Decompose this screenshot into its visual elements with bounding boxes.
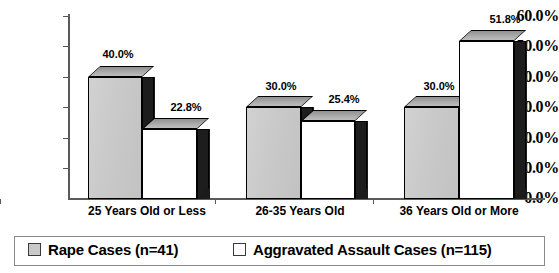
- bar-top: [142, 118, 209, 129]
- value-label-assault-25-or-less: 22.8%: [170, 101, 201, 113]
- bar-top: [301, 110, 367, 121]
- value-label-rape-25-or-less: 40.0%: [102, 48, 133, 60]
- bar-chart: 60.0% 50.0% 40.0% 30.0% 20.0% 10.0% 0.0%…: [0, 0, 559, 273]
- bar-assault-36-or-more: [459, 41, 514, 199]
- bar-side: [355, 121, 367, 199]
- bar-rape-36-or-more: [404, 107, 459, 199]
- x-axis-category-0: 25 Years Old or Less: [88, 204, 206, 218]
- value-label-rape-36-or-more: 30.0%: [423, 80, 454, 92]
- bar-rape-25-or-less: [88, 77, 142, 199]
- value-label-assault-26-35: 25.4%: [328, 93, 359, 105]
- legend-swatch-icon-rape-cases: [28, 243, 41, 256]
- y-axis-line: [68, 14, 70, 200]
- bar-assault-26-35: [301, 121, 355, 199]
- bar-top: [88, 66, 154, 77]
- bar-side: [514, 41, 526, 199]
- bar-front: [88, 77, 142, 199]
- value-label-rape-26-35: 30.0%: [265, 80, 296, 92]
- legend-label-rape-cases: Rape Cases (n=41): [48, 241, 178, 258]
- bar-top: [246, 96, 313, 107]
- x-axis-category-1: 26-35 Years Old: [255, 204, 344, 218]
- legend-swatch-icon-aggravated-assault-cases: [233, 243, 246, 256]
- bar-assault-25-or-less: [142, 129, 197, 199]
- legend-item-rape-cases[interactable]: Rape Cases (n=41): [28, 241, 178, 258]
- value-label-assault-36-or-more: 51.8%: [489, 13, 520, 25]
- bar-front: [142, 129, 197, 199]
- x-axis-category-2: 36 Years Old or More: [399, 204, 518, 218]
- bar-front: [404, 107, 459, 199]
- legend: Rape Cases (n=41) Aggravated Assault Cas…: [14, 236, 545, 266]
- bar-side: [197, 129, 209, 199]
- bar-front: [301, 121, 355, 199]
- x-axis-tick-1: [215, 199, 216, 204]
- legend-item-aggravated-assault-cases[interactable]: Aggravated Assault Cases (n=115): [233, 241, 492, 258]
- bar-rape-26-35: [246, 107, 301, 199]
- bar-front: [246, 107, 301, 199]
- bar-front: [459, 41, 514, 199]
- legend-label-aggravated-assault-cases: Aggravated Assault Cases (n=115): [253, 241, 492, 258]
- x-axis-tick-2: [373, 199, 374, 204]
